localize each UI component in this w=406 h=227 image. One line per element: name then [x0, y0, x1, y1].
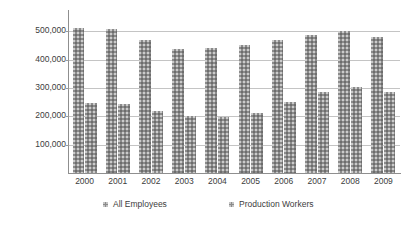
legend-entry: All Employees [103, 198, 167, 210]
x-tick-label: 2009 [367, 176, 400, 187]
bar [85, 103, 97, 173]
bar [371, 37, 383, 173]
y-tick-mark [66, 145, 69, 146]
x-axis-labels: 2000200120022003200420052006200720082009 [68, 176, 400, 190]
y-tick-label: 500,000 [20, 26, 66, 35]
x-tick-label: 2000 [68, 176, 101, 187]
y-tick-label: 100,000 [20, 140, 66, 149]
chart-legend: All EmployeesProduction Workers [0, 198, 406, 214]
bar [172, 49, 184, 173]
x-tick-label: 2004 [201, 176, 234, 187]
y-tick-mark [66, 88, 69, 89]
bar [185, 116, 197, 173]
x-tick-label: 2002 [134, 176, 167, 187]
x-tick-label: 2006 [267, 176, 300, 187]
bar [152, 111, 164, 173]
bar [351, 87, 363, 173]
bar [239, 45, 251, 173]
bar-chart: Employees 100,000200,000300,000400,00050… [0, 0, 406, 227]
x-axis-line [68, 173, 401, 174]
y-tick-label: 300,000 [20, 83, 66, 92]
bar [338, 31, 350, 173]
y-axis-labels: 100,000200,000300,000400,000500,000 [20, 0, 66, 180]
bar [106, 29, 118, 173]
y-tick-label: 400,000 [20, 55, 66, 64]
y-tick-mark [66, 60, 69, 61]
x-tick-label: 2003 [168, 176, 201, 187]
bar [118, 104, 130, 173]
y-tick-label: 200,000 [20, 111, 66, 120]
legend-swatch-icon [229, 202, 234, 207]
bars-layer [68, 10, 400, 173]
y-tick-mark [66, 116, 69, 117]
bar [272, 40, 284, 173]
legend-label: Production Workers [239, 198, 313, 210]
x-tick-label: 2001 [101, 176, 134, 187]
bar [305, 35, 317, 173]
legend-label: All Employees [113, 198, 167, 210]
bar [384, 92, 396, 173]
legend-swatch-icon [103, 202, 108, 207]
x-tick-label: 2008 [334, 176, 367, 187]
bar [284, 102, 296, 173]
bar [218, 117, 230, 173]
y-tick-mark [66, 31, 69, 32]
bar [251, 113, 263, 173]
bar [73, 28, 85, 173]
legend-entry: Production Workers [229, 198, 313, 210]
x-tick-label: 2005 [234, 176, 267, 187]
x-tick-label: 2007 [300, 176, 333, 187]
bar [318, 92, 330, 173]
bar [139, 40, 151, 173]
bar [205, 48, 217, 173]
